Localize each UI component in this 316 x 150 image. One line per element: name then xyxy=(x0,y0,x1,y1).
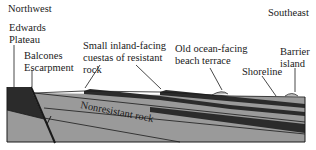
label-edwards-plateau: Edwards Plateau xyxy=(9,22,46,46)
leader-beach-terrace xyxy=(210,68,222,90)
label-cuestas: Small inland-facing cuestas of resistant… xyxy=(83,40,166,76)
leader-shoreline xyxy=(262,76,276,96)
barrier-island-bump xyxy=(285,94,298,97)
label-shoreline: Shoreline xyxy=(242,66,282,78)
beach-terrace-bump xyxy=(212,92,228,95)
label-barrier-island: Barrier island xyxy=(280,46,310,70)
label-balcones-escarpment: Balcones Escarpment xyxy=(24,50,74,74)
direction-southeast: Southeast xyxy=(268,7,309,19)
label-beach-terrace: Old ocean-facing beach terrace xyxy=(175,43,248,67)
direction-northwest: Northwest xyxy=(8,3,52,15)
